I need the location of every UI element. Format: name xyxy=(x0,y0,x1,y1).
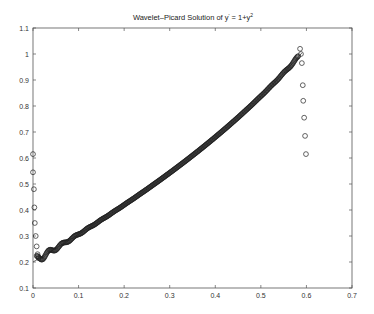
y-tick-label: 0.2 xyxy=(19,259,29,266)
y-tick-label: 0.6 xyxy=(19,155,29,162)
x-tick-label: 0.1 xyxy=(74,292,84,299)
chart-title: Wavelet–Picard Solution of y' = 1+y2 xyxy=(133,12,253,22)
x-tick-label: 0.3 xyxy=(165,292,175,299)
x-tick-label: 0.4 xyxy=(210,292,220,299)
y-tick-label: 0.7 xyxy=(19,129,29,136)
chart: Wavelet–Picard Solution of y' = 1+y2 00.… xyxy=(0,0,374,314)
y-tick-label: 0.9 xyxy=(19,77,29,84)
x-tick-label: 0.7 xyxy=(347,292,357,299)
y-tick-label: 0.8 xyxy=(19,103,29,110)
y-tick-label: 0.5 xyxy=(19,181,29,188)
y-tick-label: 1 xyxy=(25,51,29,58)
x-tick-label: 0.2 xyxy=(119,292,129,299)
x-tick-label: 0.5 xyxy=(256,292,266,299)
x-tick-label: 0 xyxy=(31,292,35,299)
y-tick-label: 0.3 xyxy=(19,233,29,240)
y-tick-label: 1.1 xyxy=(19,25,29,32)
y-tick-label: 0.1 xyxy=(19,285,29,292)
y-tick-label: 0.4 xyxy=(19,207,29,214)
x-tick-label: 0.6 xyxy=(302,292,312,299)
